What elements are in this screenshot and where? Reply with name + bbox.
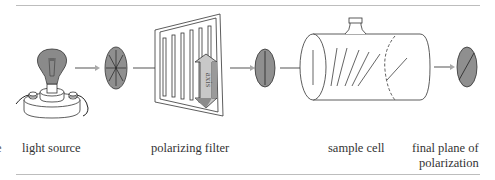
light-source-label: light source (22, 141, 81, 156)
polarized-beam-arrow (230, 65, 255, 71)
polarizing-filter-label: polarizing filter (151, 141, 229, 156)
plane-polarized-disc-icon (255, 49, 275, 87)
axis-label: axis (204, 73, 214, 88)
sample-cell-label: sample cell (328, 141, 385, 156)
light-beam-arrow (75, 65, 100, 71)
rotated-beam-arrow (434, 64, 455, 70)
final-plane-label-line1: final plane of (412, 141, 479, 156)
final-polarization-disc-icon (457, 47, 477, 87)
final-plane-label-line2: polarization (419, 156, 479, 171)
sample-cell-icon (300, 18, 430, 100)
polarizing-filter-icon (155, 14, 223, 116)
unpolarized-light-disc-icon (105, 47, 127, 89)
light-bulb-icon (16, 49, 88, 118)
